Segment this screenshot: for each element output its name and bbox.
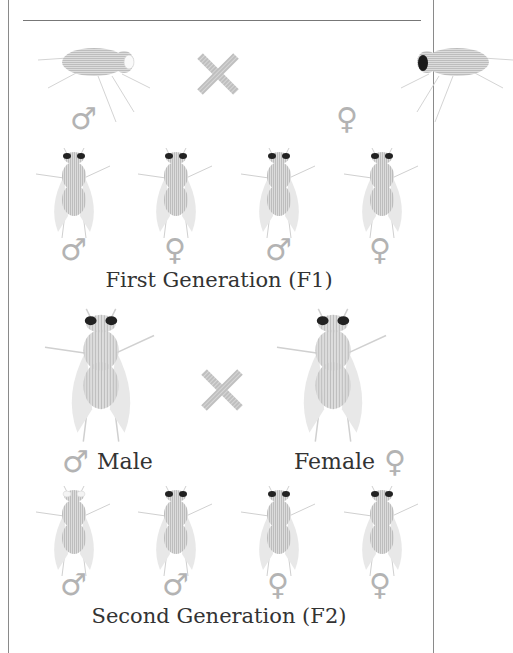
male-symbol-icon: ♂ — [265, 235, 292, 265]
male-symbol-icon: ♂ — [60, 235, 87, 265]
f1-fly-3-red-eye — [239, 146, 319, 241]
male-label: Male — [97, 449, 153, 474]
female-symbol-icon: ♀ — [384, 447, 406, 477]
female-symbol-icon: ♀ — [369, 570, 391, 600]
f2-fly-1-white-eye — [34, 484, 114, 579]
f2-fly-4-red-eye — [342, 484, 422, 579]
parent-male-fly-white-eye — [38, 42, 158, 132]
f2-caption: Second Generation (F2) — [0, 604, 438, 628]
f2-fly-3-red-eye — [239, 484, 319, 579]
female-label: Female — [294, 449, 375, 474]
divider-line — [23, 20, 421, 21]
female-symbol-icon: ♀ — [164, 235, 186, 265]
female-symbol-icon: ♀ — [267, 570, 289, 600]
f1-cross-male-fly — [36, 306, 166, 446]
female-symbol-icon: ♀ — [369, 235, 391, 265]
f2-fly-2-red-eye — [136, 484, 216, 579]
parent-female-fly-red-eye — [393, 42, 513, 132]
cross-icon — [196, 52, 242, 98]
male-symbol-icon: ♂ — [162, 570, 189, 600]
cross-icon — [200, 368, 246, 414]
f1-fly-1-red-eye — [34, 146, 114, 241]
male-symbol-icon: ♂ — [62, 447, 89, 477]
f1-cross-female-fly — [268, 306, 398, 446]
male-symbol-icon: ♂ — [70, 104, 97, 134]
f1-fly-2-red-eye — [136, 146, 216, 241]
f1-fly-4-red-eye — [342, 146, 422, 241]
male-symbol-icon: ♂ — [60, 570, 87, 600]
female-symbol-icon: ♀ — [336, 104, 358, 134]
f1-caption: First Generation (F1) — [0, 268, 438, 292]
